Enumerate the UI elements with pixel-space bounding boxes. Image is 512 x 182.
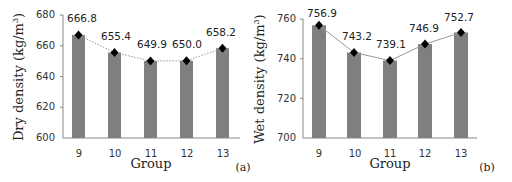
y-ticks-b: 760 740 720 700 [277,13,296,143]
svg-text:640: 640 [36,71,55,82]
svg-text:660: 660 [36,40,55,51]
bars-a [72,35,229,138]
y-ticks-a: 680 660 640 620 600 [36,9,55,143]
value-labels-b: 756.9 743.2 739.1 746.9 752.7 [307,7,474,50]
figure: Dry density (kg/m3) 680 660 640 620 600 [0,0,512,182]
svg-text:655.4: 655.4 [101,30,131,42]
svg-text:13: 13 [455,148,468,159]
bar-a-11 [144,61,157,138]
svg-text:9: 9 [316,148,322,159]
svg-text:658.2: 658.2 [206,26,236,38]
svg-text:680: 680 [36,9,55,20]
svg-text:760: 760 [277,13,296,24]
y-axis-label-b: Wet density (kg/m3) [252,14,267,143]
svg-text:10: 10 [349,148,362,159]
y-axis-label-a: Dry density (kg/m3) [11,13,26,141]
svg-text:9: 9 [76,148,82,159]
x-axis-label-b: Group [369,156,410,171]
bar-b-9 [312,25,326,138]
bar-b-13 [454,33,468,139]
x-axis-label-a: Group [130,156,171,171]
value-labels-a: 666.8 655.4 649.9 650.0 658.2 [67,12,236,50]
bar-b-12 [418,44,432,138]
bar-a-9 [72,35,85,138]
svg-text:756.9: 756.9 [307,7,337,19]
bar-a-12 [180,61,193,138]
svg-text:743.2: 743.2 [342,30,372,42]
svg-text:739.1: 739.1 [376,38,406,50]
bar-a-10 [108,53,121,139]
svg-text:12: 12 [181,148,194,159]
svg-text:752.7: 752.7 [444,11,474,23]
svg-text:650.0: 650.0 [172,38,202,50]
svg-text:10: 10 [109,148,122,159]
bar-a-13 [216,48,229,138]
bar-b-10 [347,53,361,139]
svg-text:649.9: 649.9 [137,38,167,50]
chart-a: Dry density (kg/m3) 680 660 640 620 600 [11,9,251,174]
svg-text:700: 700 [277,132,296,143]
panel-label-a: (a) [235,161,250,174]
panel-label-b: (b) [479,161,495,174]
bar-b-11 [383,61,397,138]
svg-text:666.8: 666.8 [67,12,97,24]
svg-text:620: 620 [36,101,55,112]
svg-text:13: 13 [217,148,230,159]
svg-text:740: 740 [277,53,296,64]
svg-text:746.9: 746.9 [409,22,439,34]
svg-text:600: 600 [36,132,55,143]
chart-b: Wet density (kg/m3) 760 740 720 700 [252,7,495,174]
svg-text:12: 12 [419,148,432,159]
svg-text:720: 720 [277,93,296,104]
